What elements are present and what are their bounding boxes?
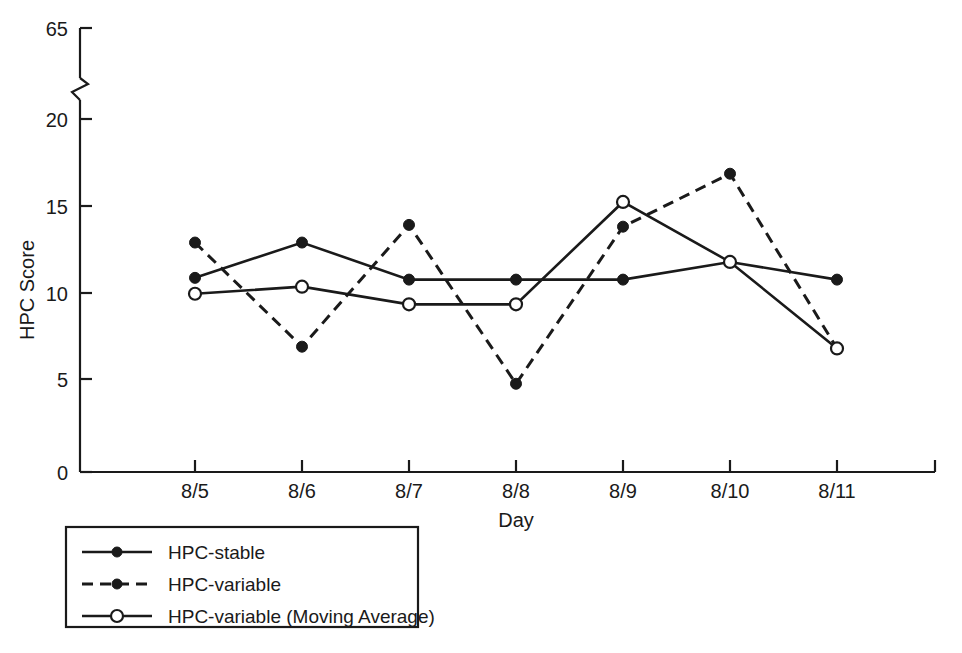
- x-axis-title: Day: [498, 509, 534, 531]
- data-point-filled-circle: [404, 219, 415, 230]
- y-tick-label-65: 65: [46, 18, 68, 40]
- y-axis-title: HPC Score: [16, 240, 38, 340]
- legend-marker-open-circle: [111, 610, 123, 622]
- legend: HPC-stable HPC-variable HPC-variable (Mo…: [66, 527, 435, 627]
- data-point-filled-circle: [832, 274, 843, 285]
- data-point-filled-circle: [725, 168, 736, 179]
- data-point-open-circle: [189, 288, 201, 300]
- x-tick-label-5: 8/10: [711, 480, 750, 502]
- chart-figure: 0 5 10 15 20 65 HPC Score 8/5 8/6 8/7 8/…: [0, 0, 962, 653]
- x-tick-label-4: 8/9: [609, 480, 637, 502]
- legend-entry-hpc-stable: HPC-stable: [82, 542, 265, 563]
- data-point-filled-circle: [404, 274, 415, 285]
- data-point-open-circle: [617, 196, 629, 208]
- y-tick-label-10: 10: [46, 283, 68, 305]
- data-point-filled-circle: [618, 221, 629, 232]
- data-point-open-circle: [510, 298, 522, 310]
- x-tick-label-1: 8/6: [288, 480, 316, 502]
- data-point-filled-circle: [511, 274, 522, 285]
- x-tick-label-6: 8/11: [818, 480, 855, 502]
- data-point-open-circle: [724, 256, 736, 268]
- data-point-filled-circle: [297, 237, 308, 248]
- legend-entry-hpc-variable: HPC-variable: [82, 574, 281, 595]
- y-tick-label-20: 20: [46, 109, 68, 131]
- data-point-open-circle: [403, 298, 415, 310]
- legend-marker-filled-circle-dashed: [112, 579, 122, 589]
- data-point-open-circle: [296, 281, 308, 293]
- series-layer: [189, 168, 843, 389]
- y-tick-label-5: 5: [57, 369, 68, 391]
- data-point-open-circle: [831, 342, 843, 354]
- x-tick-label-0: 8/5: [181, 480, 209, 502]
- data-point-filled-circle: [297, 341, 308, 352]
- x-tick-group: 8/5 8/6 8/7 8/8 8/9 8/10 8/11: [181, 460, 935, 502]
- y-axis: [72, 28, 88, 472]
- data-point-filled-circle: [618, 274, 629, 285]
- series-hpc-stable: [190, 237, 843, 285]
- legend-marker-filled-circle: [112, 547, 122, 557]
- x-tick-label-2: 8/7: [395, 480, 423, 502]
- y-tick-label-0: 0: [57, 462, 68, 484]
- y-tick-label-15: 15: [46, 196, 68, 218]
- y-axis-break-symbol: [72, 78, 88, 100]
- legend-entry-hpc-variable-moving-average: HPC-variable (Moving Average): [82, 606, 435, 627]
- chart-canvas: 0 5 10 15 20 65 HPC Score 8/5 8/6 8/7 8/…: [0, 0, 962, 653]
- data-point-filled-circle: [190, 237, 201, 248]
- legend-label-hpc-stable: HPC-stable: [168, 542, 265, 563]
- legend-label-hpc-variable-moving-average: HPC-variable (Moving Average): [168, 606, 435, 627]
- x-tick-label-3: 8/8: [502, 480, 530, 502]
- data-point-filled-circle: [511, 378, 522, 389]
- data-point-filled-circle: [190, 272, 201, 283]
- legend-label-hpc-variable: HPC-variable: [168, 574, 281, 595]
- y-tick-group: 0 5 10 15 20 65: [46, 18, 92, 484]
